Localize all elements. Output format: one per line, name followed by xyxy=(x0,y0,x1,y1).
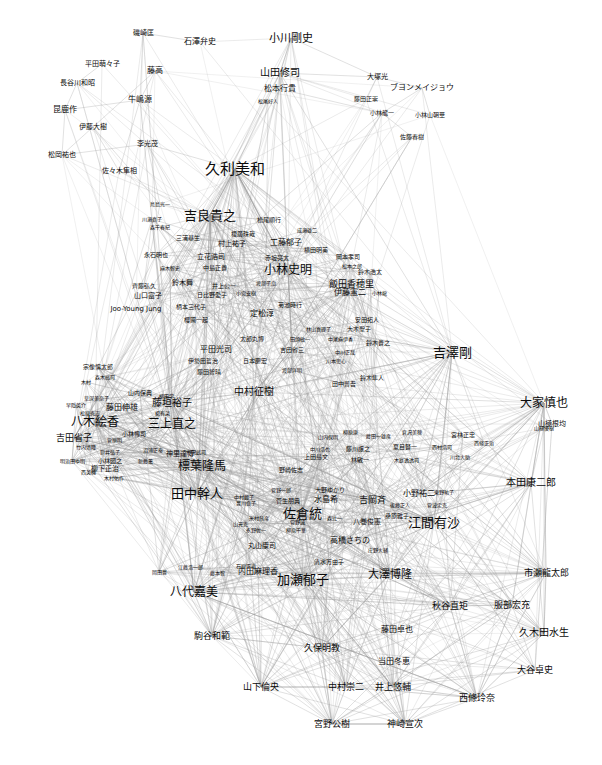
graph-node-label[interactable]: 大野ゆかり xyxy=(315,487,345,493)
graph-node-label[interactable]: ブヨンメイジョウ xyxy=(390,84,454,92)
graph-node-label[interactable]: 齊藤弘久 xyxy=(132,283,156,289)
graph-node-label[interactable]: 標葉隆馬 xyxy=(178,460,226,472)
graph-node-label[interactable]: 東野祐子 xyxy=(434,490,454,495)
graph-node-label[interactable]: 長谷川和昭 xyxy=(60,80,95,87)
graph-node-label[interactable]: 定松淳 xyxy=(250,310,274,318)
graph-node-label[interactable]: 小林圀之 xyxy=(98,458,122,464)
graph-node-label[interactable]: 宮林正忠 xyxy=(451,432,475,438)
graph-node-label[interactable]: 小川剛史 xyxy=(269,33,313,44)
graph-node-label[interactable]: 竹内清隆 xyxy=(76,445,96,450)
graph-node-label[interactable]: 菅波定克 xyxy=(427,503,447,508)
graph-node-label[interactable]: 吉田省三 xyxy=(280,347,304,353)
graph-node-label[interactable]: 倉沢美穂 xyxy=(402,430,422,435)
graph-node-label[interactable]: 西村浩司 xyxy=(432,445,452,450)
graph-node-label[interactable]: 村上祐子 xyxy=(218,241,246,248)
graph-node-label[interactable]: 柳田学 xyxy=(159,394,174,399)
graph-node-label[interactable]: 小野祐二 xyxy=(403,490,435,498)
graph-node-label[interactable]: 柳原千華 xyxy=(286,528,306,533)
graph-node-label[interactable]: 森千春紀 xyxy=(150,225,170,230)
graph-node-label[interactable]: 中村崇二 xyxy=(328,683,364,692)
graph-node-label[interactable]: 神崎宣次 xyxy=(387,720,423,729)
graph-node-label[interactable]: 永野佐一 xyxy=(246,528,266,533)
graph-node-label[interactable]: 西條玲奈 xyxy=(459,694,495,703)
graph-node-label[interactable]: 櫻圃一起 xyxy=(184,317,208,323)
graph-node-label[interactable]: 林敏一 xyxy=(351,457,369,463)
graph-node-label[interactable]: 柄本三代子 xyxy=(176,304,206,310)
graph-node-label[interactable]: 森木高司 xyxy=(95,375,115,380)
graph-node-label[interactable]: 木庭透透司 xyxy=(394,458,419,463)
graph-node-label[interactable]: 鈴木貴之 xyxy=(366,340,390,346)
graph-node-label[interactable]: 大澤博隆 xyxy=(368,569,412,580)
graph-node-label[interactable]: 八木絵香 xyxy=(71,416,119,428)
graph-node-label[interactable]: 藤川譲之 xyxy=(346,446,370,452)
graph-node-label[interactable]: 大塚光 xyxy=(367,74,388,81)
graph-node-label[interactable]: 山極優樹 xyxy=(534,426,554,431)
graph-node-label[interactable]: 米村昌彦 xyxy=(249,516,269,521)
graph-node-label[interactable]: 佐々木隼相 xyxy=(102,168,137,175)
graph-node-label[interactable]: 明治田ゆ明 xyxy=(60,459,85,464)
graph-node-label[interactable]: 川北大助 xyxy=(450,455,470,460)
graph-node-label[interactable]: 横田明美 xyxy=(304,247,328,253)
graph-node-label[interactable]: 藤田一雄彦 xyxy=(366,434,391,439)
graph-node-label[interactable]: 松尾好人 xyxy=(258,99,278,104)
graph-node-label[interactable]: 八代嘉美 xyxy=(170,586,218,598)
graph-node-label[interactable]: 大木聖子 xyxy=(347,326,371,332)
graph-node-label[interactable]: 伊勢田哲治 xyxy=(188,358,218,364)
graph-node-label[interactable]: 西條正治 xyxy=(474,441,494,446)
graph-node-label[interactable]: 平田萌々子 xyxy=(85,61,120,68)
graph-node-label[interactable]: 市瀬龍太郎 xyxy=(524,569,569,578)
graph-node-label[interactable]: 井上悠輔 xyxy=(375,683,411,692)
graph-node-label[interactable]: 竹沢武司 xyxy=(186,450,206,455)
graph-node-label[interactable]: 吉良貴之 xyxy=(184,209,236,222)
graph-node-label[interactable]: 新藤薫 xyxy=(138,459,153,464)
graph-node-label[interactable]: 楊有菜 xyxy=(155,411,170,416)
graph-node-label[interactable]: 藤高 xyxy=(147,67,163,75)
graph-node-label[interactable]: 上田島文 xyxy=(304,454,328,460)
graph-node-label[interactable]: 成瀬雄二 xyxy=(297,228,317,233)
graph-node-label[interactable]: 山口富子 xyxy=(134,293,162,300)
graph-node-label[interactable]: 藤垣裕子 xyxy=(152,398,192,408)
graph-node-label[interactable]: 立花浩司 xyxy=(197,254,225,261)
graph-node-label[interactable]: 久利美和 xyxy=(205,162,265,177)
graph-node-label[interactable]: 当田冬恵 xyxy=(378,658,410,666)
graph-node-label[interactable]: 服部宏充 xyxy=(494,601,530,610)
graph-node-label[interactable]: 磯崎匡 xyxy=(133,30,154,37)
graph-node-label[interactable]: 田中幹人 xyxy=(171,487,223,500)
graph-node-label[interactable]: 八巻俊憲 xyxy=(353,519,381,526)
graph-node-label[interactable]: 岡本孝司 xyxy=(336,254,360,260)
graph-node-label[interactable]: 松本行貴 xyxy=(264,85,296,93)
graph-node-label[interactable]: 加瀬郁子 xyxy=(277,573,329,586)
graph-node-label[interactable]: 伊藤大樹 xyxy=(79,124,107,131)
graph-node-label[interactable]: 伊藤憲二 xyxy=(334,289,366,297)
graph-node-label[interactable]: 大家慎也 xyxy=(520,397,568,409)
graph-node-label[interactable]: 鈴木隼人 xyxy=(360,375,384,381)
graph-node-label[interactable]: 菅生朋典 xyxy=(276,498,300,504)
graph-node-label[interactable]: 小宮支樹 xyxy=(236,291,256,296)
graph-node-label[interactable]: 石澤弁史 xyxy=(184,38,216,46)
graph-node-label[interactable]: 藤田智晴 xyxy=(197,369,221,375)
graph-node-label[interactable]: 草深美奈子 xyxy=(84,396,109,401)
graph-node-label[interactable]: 後藤正人 xyxy=(390,503,410,508)
graph-node-label[interactable]: 吉岡斉 xyxy=(359,496,386,505)
graph-node-label[interactable]: 安田拓人 xyxy=(355,317,379,323)
graph-node-label[interactable]: 太郎丸博 xyxy=(240,336,264,342)
graph-node-label[interactable]: 宮野公樹 xyxy=(314,720,350,729)
graph-node-label[interactable]: 田頭敏一 xyxy=(290,337,310,342)
graph-node-label[interactable]: 渡部洋明 xyxy=(282,368,302,373)
graph-node-label[interactable]: 内田麻理香 xyxy=(238,568,278,576)
graph-node-label[interactable]: 山内保典 xyxy=(128,390,152,396)
network-graph-canvas[interactable]: 磯崎匡石澤弁史小川剛史平田萌々子藤高山田修司大塚光長谷川和昭松本行貴ブヨンメイジ… xyxy=(0,0,602,765)
graph-node-label[interactable]: 沼浦正泰 xyxy=(143,448,163,453)
graph-node-label[interactable]: 久木田水生 xyxy=(519,628,569,638)
graph-node-label[interactable]: 中村征樹 xyxy=(234,387,274,397)
graph-node-label[interactable]: 山田修司 xyxy=(260,68,300,78)
graph-node-label[interactable]: 藤田卓也 xyxy=(381,626,413,634)
graph-node-label[interactable]: 昆鹿作 xyxy=(53,106,77,114)
graph-node-label[interactable]: 小林龍 xyxy=(372,291,387,296)
graph-node-label[interactable]: 中尾麻伊香 xyxy=(328,337,353,342)
graph-node-label[interactable]: 江藤浩一郎 xyxy=(178,565,203,570)
graph-node-label[interactable]: 日比野愛子 xyxy=(197,292,227,298)
graph-node-label[interactable]: 大谷卓史 xyxy=(517,666,553,675)
graph-node-label[interactable]: 牛嶋源 xyxy=(128,96,152,104)
graph-node-label[interactable]: 早隠英介 xyxy=(66,403,86,408)
